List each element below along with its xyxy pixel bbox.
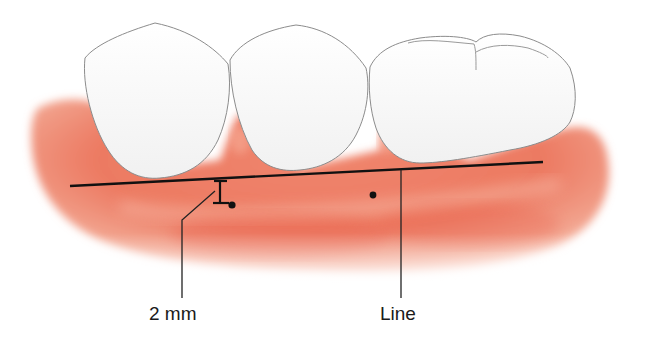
measurement-dot	[228, 201, 235, 208]
measurement-label: 2 mm	[149, 303, 197, 325]
diagram-stage: 2 mm Line	[0, 0, 649, 340]
line-label: Line	[380, 303, 416, 325]
gum-teeth-illustration	[0, 0, 649, 340]
reference-dot	[370, 192, 377, 199]
